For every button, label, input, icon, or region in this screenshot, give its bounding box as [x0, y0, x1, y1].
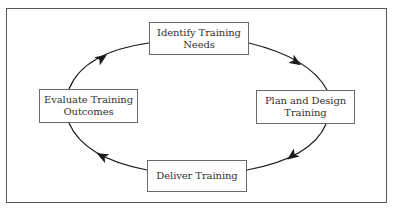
- node-evaluate-training-outcomes: Evaluate Training Outcomes: [39, 89, 138, 123]
- node-label: Identify Training Needs: [157, 27, 241, 51]
- arrowhead-plan-to-deliver: [292, 148, 303, 156]
- node-label: Deliver Training: [156, 170, 237, 182]
- node-deliver-training: Deliver Training: [147, 160, 247, 192]
- connector-evaluate-to-identify: [69, 43, 149, 89]
- connector-deliver-to-evaluate: [69, 123, 147, 170]
- connector-identify-to-plan: [249, 43, 327, 90]
- connector-plan-to-deliver: [247, 124, 326, 170]
- node-label: Plan and Design Training: [265, 95, 346, 119]
- node-identify-training-needs: Identify Training Needs: [149, 22, 249, 55]
- node-label: Evaluate Training Outcomes: [44, 94, 133, 118]
- node-plan-and-design-training: Plan and Design Training: [256, 90, 355, 124]
